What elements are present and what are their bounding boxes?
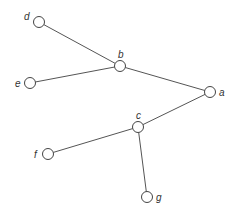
node-d: d	[24, 11, 45, 28]
edge-c-f	[53, 129, 132, 153]
node-circle-c	[133, 122, 144, 133]
node-b: b	[115, 49, 126, 72]
tree-diagram: abcdefg	[0, 0, 233, 215]
node-label-a: a	[219, 87, 225, 98]
node-label-d: d	[24, 11, 30, 22]
node-circle-a	[205, 87, 216, 98]
node-label-e: e	[15, 78, 21, 89]
edge-c-g	[139, 132, 147, 191]
node-g: g	[142, 192, 163, 204]
node-a: a	[205, 87, 226, 99]
edge-a-b	[125, 68, 204, 91]
node-label-g: g	[156, 192, 162, 203]
nodes-layer: abcdefg	[15, 11, 225, 203]
edge-b-e	[35, 67, 114, 82]
node-f: f	[34, 149, 54, 161]
node-circle-b	[115, 61, 126, 72]
node-circle-d	[34, 17, 45, 28]
node-label-f: f	[34, 149, 38, 160]
edge-b-d	[44, 25, 115, 64]
node-e: e	[15, 78, 36, 90]
node-circle-f	[43, 149, 54, 160]
edge-a-c	[143, 94, 205, 124]
node-circle-g	[142, 192, 153, 203]
node-label-c: c	[136, 110, 141, 121]
node-circle-e	[25, 78, 36, 89]
node-label-b: b	[118, 49, 124, 60]
node-c: c	[133, 110, 144, 133]
